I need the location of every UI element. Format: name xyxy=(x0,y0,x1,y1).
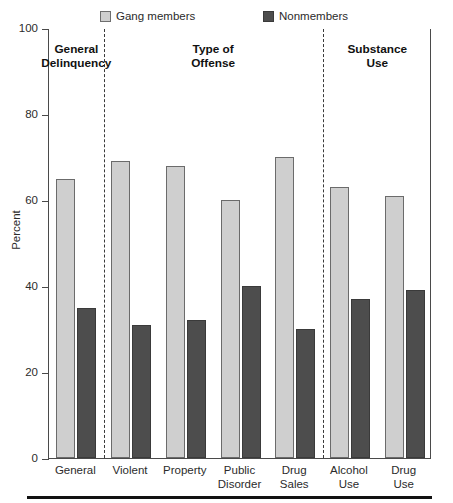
y-axis-tick: 20 xyxy=(42,373,49,374)
y-axis-tick-label: 100 xyxy=(19,22,38,34)
y-axis-tick-label: 0 xyxy=(32,452,38,464)
bar-gang-members xyxy=(111,161,130,458)
x-axis-category-label: Drug Use xyxy=(354,464,453,491)
bar-nonmembers xyxy=(242,286,261,458)
bar-gang-members xyxy=(275,157,294,458)
y-axis-tick-label: 20 xyxy=(25,366,38,378)
bar-nonmembers xyxy=(187,320,206,458)
y-axis-tick: 0 xyxy=(42,459,49,460)
bar-gang-members xyxy=(221,200,240,458)
bar-nonmembers xyxy=(132,325,151,458)
y-axis-tick: 60 xyxy=(42,201,49,202)
bar-gang-members xyxy=(385,196,404,458)
y-axis-tick: 100 xyxy=(42,29,49,30)
bar-nonmembers xyxy=(296,329,315,458)
legend-item-nonmembers: Nonmembers xyxy=(263,10,348,22)
y-axis-tick-label: 40 xyxy=(25,280,38,292)
legend-label-gang-members: Gang members xyxy=(116,10,195,22)
y-axis-tick: 80 xyxy=(42,115,49,116)
section-title: Type of Offense xyxy=(153,43,273,71)
y-axis-tick-label: 80 xyxy=(25,108,38,120)
section-divider xyxy=(104,29,105,458)
y-axis-tick: 40 xyxy=(42,287,49,288)
y-axis-title: Percent xyxy=(10,200,22,260)
bottom-rule-divider xyxy=(27,496,432,499)
bar-chart-figure: Gang members Nonmembers Percent 10080604… xyxy=(0,0,453,503)
legend-label-nonmembers: Nonmembers xyxy=(279,10,348,22)
section-title: Substance Use xyxy=(317,43,437,71)
legend-item-gang-members: Gang members xyxy=(100,10,195,22)
bar-nonmembers xyxy=(77,308,96,459)
section-title: General Delinquency xyxy=(16,43,136,71)
bar-gang-members xyxy=(166,166,185,458)
bar-nonmembers xyxy=(406,290,425,458)
legend-swatch-nonmembers-icon xyxy=(263,11,274,22)
bar-gang-members xyxy=(330,187,349,458)
plot-area: 100806040200General DelinquencyType of O… xyxy=(48,29,431,459)
y-axis-tick-label: 60 xyxy=(25,194,38,206)
legend-swatch-gang-members-icon xyxy=(100,11,111,22)
bar-nonmembers xyxy=(351,299,370,458)
bar-gang-members xyxy=(56,179,75,459)
chart-legend: Gang members Nonmembers xyxy=(100,10,400,30)
section-divider xyxy=(323,29,324,458)
